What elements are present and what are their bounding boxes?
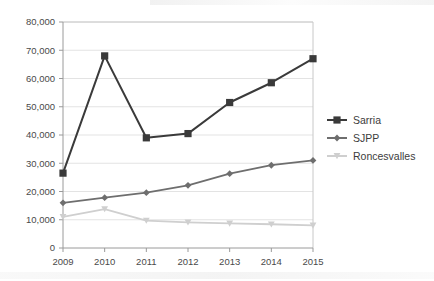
data-point-marker: [268, 79, 275, 86]
chart-canvas: 010,00020,00030,00040,00050,00060,00070,…: [0, 0, 434, 281]
y-tick-label: 70,000: [26, 45, 55, 56]
y-tick-label: 80,000: [26, 16, 55, 27]
data-point-marker: [333, 116, 340, 123]
x-tick-label: 2012: [177, 256, 198, 267]
data-point-marker: [101, 52, 108, 59]
y-tick-label: 40,000: [26, 129, 55, 140]
x-tick-label: 2009: [52, 256, 73, 267]
y-tick-label: 20,000: [26, 186, 55, 197]
x-tick-label: 2010: [94, 256, 115, 267]
y-tick-label: 10,000: [26, 214, 55, 225]
data-point-marker: [143, 134, 150, 141]
x-tick-label: 2015: [302, 256, 323, 267]
x-tick-label: 2013: [219, 256, 240, 267]
line-chart: 010,00020,00030,00040,00050,00060,00070,…: [0, 0, 434, 281]
legend-label: SJPP: [353, 132, 379, 144]
y-tick-label: 30,000: [26, 158, 55, 169]
data-point-marker: [59, 170, 66, 177]
data-point-marker: [226, 99, 233, 106]
data-point-marker: [309, 55, 316, 62]
legend-label: Sarria: [353, 114, 381, 126]
y-tick-label: 0: [50, 242, 55, 253]
legend-label: Roncesvalles: [353, 150, 415, 162]
y-axis-tick-labels: 010,00020,00030,00040,00050,00060,00070,…: [26, 16, 55, 253]
x-tick-label: 2014: [261, 256, 282, 267]
y-tick-label: 60,000: [26, 73, 55, 84]
y-tick-label: 50,000: [26, 101, 55, 112]
data-point-marker: [184, 130, 191, 137]
x-tick-label: 2011: [136, 256, 156, 267]
